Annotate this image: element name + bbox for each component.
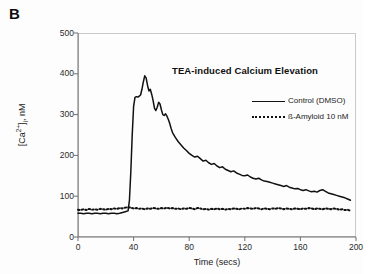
- x-axis-tick-label: 0: [63, 242, 93, 252]
- y-axis-tick-label: 500: [46, 29, 74, 38]
- y-axis-title-subscript: i: [22, 121, 29, 122]
- y-axis-title-units: , nM: [17, 103, 27, 121]
- legend-swatch-solid-line-icon: [252, 101, 285, 105]
- y-axis-title-prefix: [Ca: [17, 132, 27, 146]
- legend-label-control: Control (DMSO): [288, 96, 345, 105]
- x-axis-tick-label: 40: [119, 242, 149, 252]
- x-axis-tick-label: 200: [341, 242, 368, 252]
- y-axis-tick-label: 100: [46, 192, 74, 201]
- x-axis-tick-label: 160: [285, 242, 315, 252]
- x-axis-title: Time (secs): [78, 257, 356, 267]
- legend: Control (DMSO) ß-Amyloid 10 nM: [252, 94, 362, 126]
- y-axis-title: [Ca2+]i, nM: [15, 70, 29, 180]
- series-line-amyloid: [78, 207, 350, 211]
- legend-swatch-dotted-line-icon: [252, 116, 285, 121]
- x-axis-tick-label: 120: [230, 242, 260, 252]
- y-axis-tick-label: 200: [46, 151, 74, 160]
- legend-item-amyloid: ß-Amyloid 10 nM: [252, 110, 362, 126]
- chart-title: TEA-induced Calcium Elevation: [172, 65, 318, 76]
- y-axis-tick-label: 300: [46, 110, 74, 119]
- legend-item-control: Control (DMSO): [252, 94, 362, 110]
- y-axis-tick-labels: 0100200300400500: [44, 0, 74, 274]
- legend-label-amyloid: ß-Amyloid 10 nM: [288, 112, 348, 121]
- x-axis-tick-label: 80: [174, 242, 204, 252]
- y-axis-title-superscript: 2+: [15, 125, 22, 132]
- y-axis-tick-label: 400: [46, 69, 74, 78]
- x-axis-tick-labels: 04080120160200: [0, 242, 363, 256]
- y-axis-tick-label: 0: [46, 233, 74, 242]
